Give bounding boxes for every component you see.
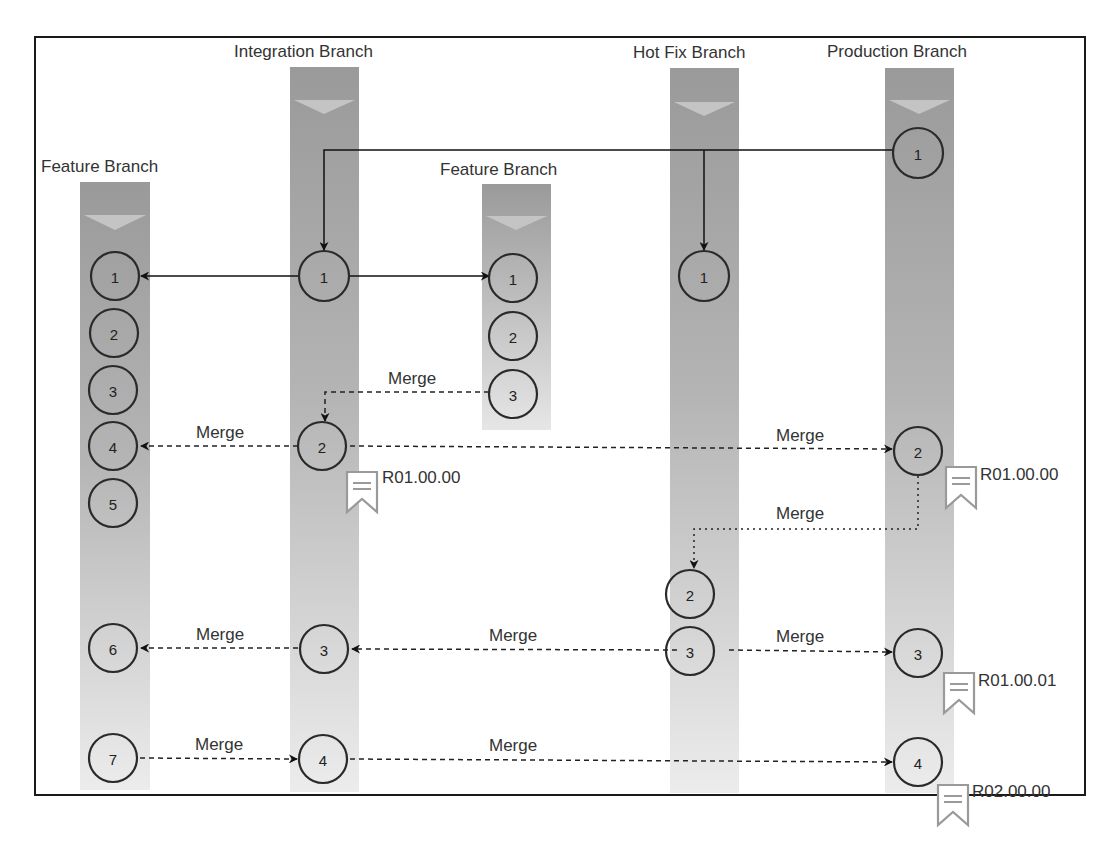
merge-label: Merge [196,625,244,644]
merge-label: Merge [776,426,824,445]
branch-title-feature-mid: Feature Branch [440,160,557,179]
branch-title-integration: Integration Branch [234,42,373,61]
release-tag-label: R01.00.01 [978,671,1056,690]
svg-text:5: 5 [109,496,117,513]
release-tag: R01.00.01 [944,671,1056,713]
svg-text:1: 1 [509,271,517,288]
svg-text:3: 3 [686,644,694,661]
merge-integration-2-to-production-2 [350,446,892,449]
merge-feature-left-7-to-integration-4 [140,758,297,759]
svg-text:6: 6 [109,641,117,658]
merge-connectors [140,392,918,762]
merge-label: Merge [489,626,537,645]
svg-text:2: 2 [318,439,326,456]
merge-label: Merge [388,369,436,388]
svg-text:2: 2 [686,587,694,604]
bookmark-icon [938,785,968,825]
svg-text:1: 1 [320,269,328,286]
merge-integration-4-to-production-4 [350,759,892,762]
connector-production-to-integration [324,150,893,250]
svg-text:1: 1 [700,269,708,286]
merge-label: Merge [195,735,243,754]
merge-label: Merge [776,504,824,523]
svg-text:3: 3 [109,383,117,400]
merge-label: Merge [776,627,824,646]
svg-text:3: 3 [320,642,328,659]
svg-text:2: 2 [914,444,922,461]
svg-text:1: 1 [111,269,119,286]
bookmark-icon [347,472,377,512]
svg-text:3: 3 [509,387,517,404]
branch-title-production: Production Branch [827,42,967,61]
merge-label: Merge [489,736,537,755]
svg-text:2: 2 [110,326,118,343]
merge-label: Merge [196,423,244,442]
svg-text:4: 4 [914,755,922,772]
merge-hotfix-3-to-integration-3 [352,649,677,650]
branch-title-feature-left: Feature Branch [41,157,158,176]
svg-text:2: 2 [509,329,517,346]
release-tag: R01.00.00 [347,468,460,512]
svg-text:3: 3 [914,646,922,663]
merge-hotfix-3-to-production-3 [729,650,892,652]
bookmark-icon [944,673,974,713]
release-tag-label: R02.00.00 [972,782,1050,801]
bookmark-icon [946,467,976,508]
svg-text:7: 7 [109,751,117,768]
release-tag: R02.00.00 [938,782,1050,825]
svg-text:1: 1 [914,146,922,163]
release-tag: R01.00.00 [946,465,1058,508]
svg-text:4: 4 [109,439,117,456]
svg-text:4: 4 [319,752,327,769]
release-tag-label: R01.00.00 [382,468,460,487]
release-tag-label: R01.00.00 [980,465,1058,484]
branch-title-hotfix: Hot Fix Branch [633,43,745,62]
branching-diagram: Integration Branch Hot Fix Branch Produc… [0,0,1119,858]
